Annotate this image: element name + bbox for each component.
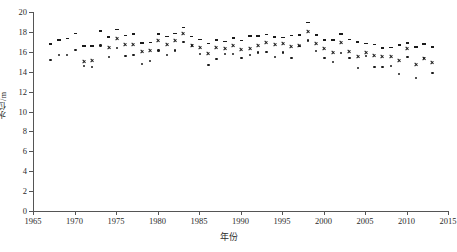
x-axis-title: 年份	[0, 232, 457, 242]
data-point-series-2	[66, 54, 68, 56]
data-point-series-2	[381, 66, 383, 68]
x-axis-tick	[75, 211, 76, 215]
data-point-series-2	[199, 53, 201, 55]
data-point-series-2	[191, 44, 193, 46]
data-point-series-0	[165, 36, 168, 37]
plot-area	[34, 13, 448, 211]
data-point-series-1	[131, 43, 135, 47]
y-axis-tick	[29, 171, 33, 172]
data-point-series-0	[157, 33, 160, 34]
y-axis-tick	[29, 131, 33, 132]
y-axis-tick	[29, 92, 33, 93]
data-point-series-1	[123, 42, 127, 46]
data-point-series-1	[322, 46, 326, 50]
data-point-series-1	[314, 42, 318, 46]
data-point-series-1	[248, 47, 252, 51]
data-point-series-2	[298, 45, 300, 47]
data-point-series-2	[415, 77, 417, 79]
x-axis-tick	[448, 211, 449, 215]
x-axis-tick	[407, 211, 408, 215]
data-point-series-1	[372, 53, 376, 57]
data-point-series-0	[90, 45, 93, 46]
data-point-series-0	[107, 36, 110, 37]
data-point-series-1	[156, 39, 160, 43]
x-axis-tick	[324, 211, 325, 215]
data-point-series-2	[74, 49, 76, 51]
y-axis-tick-label: 0	[23, 207, 27, 216]
y-axis-title: 水位/m	[0, 92, 8, 119]
data-point-series-1	[405, 46, 409, 50]
data-point-series-0	[215, 39, 218, 40]
data-point-series-2	[390, 65, 392, 67]
data-point-series-2	[315, 50, 317, 52]
y-axis-tick-label: 12	[19, 88, 28, 97]
data-point-series-2	[166, 54, 168, 56]
data-point-series-0	[198, 39, 201, 40]
data-point-series-2	[83, 65, 85, 67]
data-point-series-1	[165, 42, 169, 46]
scatter-chart-figure: 水位/m 年份 02468101214161820196519701975198…	[0, 0, 457, 252]
x-axis-tick-label: 1965	[25, 217, 42, 226]
data-point-series-0	[281, 37, 284, 38]
data-point-series-2	[332, 61, 334, 63]
data-point-series-0	[140, 42, 143, 43]
data-point-series-0	[406, 42, 409, 43]
data-point-series-2	[348, 57, 350, 59]
data-point-series-2	[116, 47, 118, 49]
data-point-series-2	[373, 66, 375, 68]
data-point-series-1	[264, 40, 268, 44]
data-point-series-1	[82, 59, 86, 63]
x-axis-tick	[116, 211, 117, 215]
data-point-series-1	[273, 42, 277, 46]
data-point-series-0	[315, 34, 318, 35]
data-point-series-0	[256, 35, 259, 36]
x-axis-tick-label: 1990	[232, 217, 249, 226]
data-point-series-2	[141, 63, 143, 65]
y-axis-tick-label: 14	[19, 68, 28, 77]
x-axis-tick-label: 2015	[440, 217, 457, 226]
y-axis-tick	[29, 32, 33, 33]
y-axis-tick-label: 18	[19, 28, 28, 37]
data-point-series-2	[207, 64, 209, 66]
data-point-series-0	[173, 33, 176, 34]
y-axis-tick	[29, 72, 33, 73]
data-point-series-0	[240, 40, 243, 41]
data-point-series-2	[265, 51, 267, 53]
x-axis-tick-label: 1995	[274, 217, 291, 226]
data-point-series-0	[182, 27, 185, 28]
data-point-series-2	[307, 39, 309, 41]
data-point-series-1	[90, 58, 94, 62]
data-point-series-2	[240, 57, 242, 59]
data-point-series-0	[398, 44, 401, 45]
data-point-series-0	[132, 33, 135, 34]
data-point-series-0	[339, 33, 342, 34]
data-point-series-1	[148, 48, 152, 52]
data-point-series-1	[281, 42, 285, 46]
data-point-series-0	[248, 35, 251, 36]
data-point-series-0	[356, 41, 359, 42]
data-point-series-0	[57, 39, 60, 40]
data-point-series-0	[273, 36, 276, 37]
data-point-series-1	[181, 32, 185, 36]
y-axis-tick-label: 10	[19, 108, 28, 117]
data-point-series-0	[431, 46, 434, 47]
data-point-series-0	[74, 33, 77, 34]
data-point-series-0	[124, 35, 127, 36]
data-point-series-2	[174, 49, 176, 51]
data-point-series-2	[215, 58, 217, 60]
data-point-series-0	[414, 46, 417, 47]
x-axis-tick	[365, 211, 366, 215]
x-axis-tick-label: 2000	[315, 217, 332, 226]
data-point-series-0	[115, 29, 118, 30]
y-axis-tick-label: 4	[23, 167, 27, 176]
data-point-series-0	[331, 39, 334, 40]
y-axis-tick-label: 16	[19, 48, 28, 57]
x-axis-tick-label: 2010	[398, 217, 415, 226]
x-axis-tick	[282, 211, 283, 215]
data-point-series-1	[430, 60, 434, 64]
y-axis-tick	[29, 112, 33, 113]
y-axis-tick	[29, 151, 33, 152]
y-axis-tick	[29, 191, 33, 192]
data-point-series-2	[365, 55, 367, 57]
x-axis-tick-label: 1985	[191, 217, 208, 226]
